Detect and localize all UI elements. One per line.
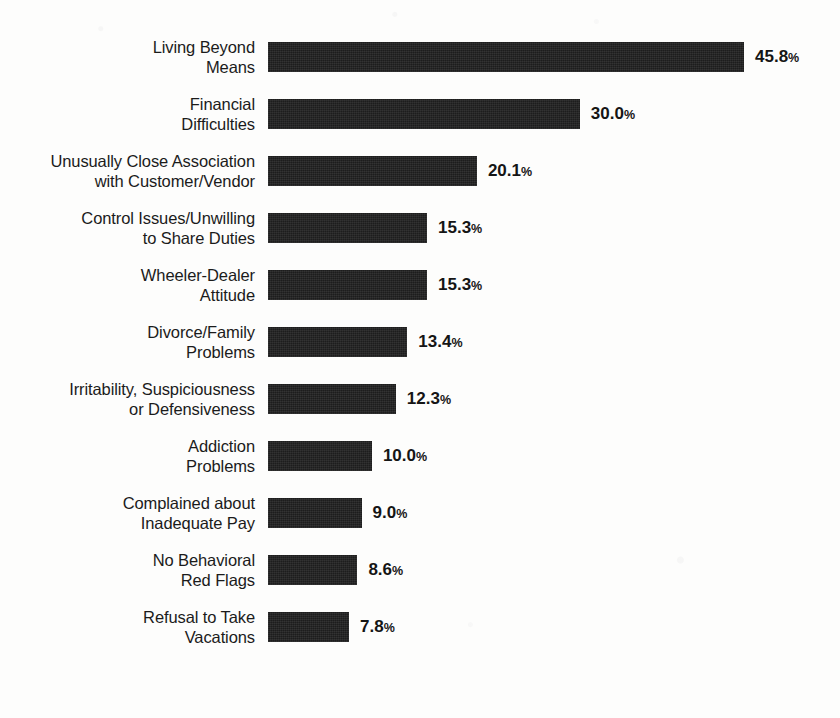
bar-value-label: 45.8% bbox=[755, 48, 799, 65]
bar-track: 20.1% bbox=[268, 156, 840, 186]
bar-value-label: 9.0% bbox=[373, 504, 408, 521]
bar-row: Control Issues/Unwilling to Share Duties… bbox=[0, 199, 840, 256]
bar-track: 13.4% bbox=[268, 327, 840, 357]
percent-sign: % bbox=[624, 108, 635, 122]
bar-value-label: 10.0% bbox=[383, 447, 427, 464]
category-label: Refusal to Take Vacations bbox=[0, 607, 255, 647]
percent-sign: % bbox=[396, 507, 407, 521]
percent-sign: % bbox=[451, 336, 462, 350]
percent-sign: % bbox=[416, 450, 427, 464]
bar-value-label: 15.3% bbox=[438, 219, 482, 236]
category-label: Living Beyond Means bbox=[0, 37, 255, 77]
bar-value-label: 30.0% bbox=[591, 105, 635, 122]
bar bbox=[268, 441, 372, 471]
bar-track: 12.3% bbox=[268, 384, 840, 414]
bar-track: 7.8% bbox=[268, 612, 840, 642]
bar-row: Unusually Close Association with Custome… bbox=[0, 142, 840, 199]
bar-value-number: 8.6 bbox=[368, 560, 392, 579]
bar-row: Refusal to Take Vacations7.8% bbox=[0, 598, 840, 655]
bar-value-number: 30.0 bbox=[591, 104, 624, 123]
category-label: Unusually Close Association with Custome… bbox=[0, 151, 255, 191]
bar-track: 45.8% bbox=[268, 42, 840, 72]
percent-sign: % bbox=[521, 165, 532, 179]
bar-row: Living Beyond Means45.8% bbox=[0, 28, 840, 85]
bar-row: Addiction Problems10.0% bbox=[0, 427, 840, 484]
bar-row: Complained about Inadequate Pay9.0% bbox=[0, 484, 840, 541]
bar-value-label: 13.4% bbox=[418, 333, 462, 350]
bar bbox=[268, 327, 407, 357]
bar-value-label: 8.6% bbox=[368, 561, 403, 578]
category-label: Control Issues/Unwilling to Share Duties bbox=[0, 208, 255, 248]
category-label: Wheeler-Dealer Attitude bbox=[0, 265, 255, 305]
bar-value-number: 20.1 bbox=[488, 161, 521, 180]
bar-value-number: 12.3 bbox=[407, 389, 440, 408]
percent-sign: % bbox=[384, 621, 395, 635]
bar bbox=[268, 270, 427, 300]
bar-value-number: 15.3 bbox=[438, 218, 471, 237]
bar bbox=[268, 612, 349, 642]
bar-track: 15.3% bbox=[268, 213, 840, 243]
bar-row: No Behavioral Red Flags8.6% bbox=[0, 541, 840, 598]
bar-value-number: 7.8 bbox=[360, 617, 384, 636]
category-label: Financial Difficulties bbox=[0, 94, 255, 134]
bar-row: Wheeler-Dealer Attitude15.3% bbox=[0, 256, 840, 313]
bar-value-number: 9.0 bbox=[373, 503, 397, 522]
bar-row: Irritability, Suspiciousness or Defensiv… bbox=[0, 370, 840, 427]
bar bbox=[268, 99, 580, 129]
bar bbox=[268, 555, 357, 585]
bar-row: Divorce/Family Problems13.4% bbox=[0, 313, 840, 370]
bar-value-label: 20.1% bbox=[488, 162, 532, 179]
bar bbox=[268, 384, 396, 414]
category-label: No Behavioral Red Flags bbox=[0, 550, 255, 590]
bar-track: 10.0% bbox=[268, 441, 840, 471]
bar-value-number: 15.3 bbox=[438, 275, 471, 294]
bar-track: 9.0% bbox=[268, 498, 840, 528]
percent-sign: % bbox=[392, 564, 403, 578]
bar-value-label: 12.3% bbox=[407, 390, 451, 407]
bar-value-number: 45.8 bbox=[755, 47, 788, 66]
bar bbox=[268, 156, 477, 186]
category-label: Irritability, Suspiciousness or Defensiv… bbox=[0, 379, 255, 419]
bar-value-label: 7.8% bbox=[360, 618, 395, 635]
bar-value-label: 15.3% bbox=[438, 276, 482, 293]
bar-track: 15.3% bbox=[268, 270, 840, 300]
chart-plot-area: Living Beyond Means45.8%Financial Diffic… bbox=[0, 28, 840, 655]
percent-sign: % bbox=[471, 279, 482, 293]
category-label: Complained about Inadequate Pay bbox=[0, 493, 255, 533]
percent-sign: % bbox=[471, 222, 482, 236]
percent-sign: % bbox=[788, 51, 799, 65]
category-label: Addiction Problems bbox=[0, 436, 255, 476]
bar bbox=[268, 42, 744, 72]
bar-value-number: 13.4 bbox=[418, 332, 451, 351]
bar-track: 30.0% bbox=[268, 99, 840, 129]
bar-chart: Living Beyond Means45.8%Financial Diffic… bbox=[0, 0, 840, 718]
percent-sign: % bbox=[440, 393, 451, 407]
bar-track: 8.6% bbox=[268, 555, 840, 585]
bar bbox=[268, 498, 362, 528]
bar-value-number: 10.0 bbox=[383, 446, 416, 465]
category-label: Divorce/Family Problems bbox=[0, 322, 255, 362]
bar bbox=[268, 213, 427, 243]
bar-row: Financial Difficulties30.0% bbox=[0, 85, 840, 142]
